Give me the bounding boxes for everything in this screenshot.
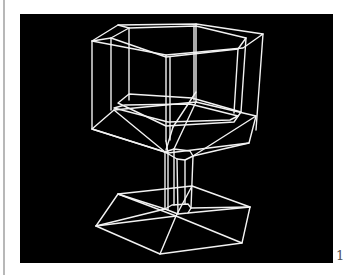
wire-stem-edge-6 — [191, 156, 193, 208]
wire-base-spoke-9 — [191, 207, 250, 208]
goblet-wireframe — [0, 0, 352, 275]
page-number: 1 — [336, 249, 344, 263]
wire-stem-edge-4 — [177, 159, 178, 214]
wire-bowl-bottom-outer — [92, 102, 256, 153]
wire-base-spoke-5 — [176, 216, 242, 243]
wire-wall-right-outer — [256, 34, 263, 130]
wire-cup-floor-inner2 — [114, 104, 238, 122]
wire-bowl-taper-2 — [114, 110, 165, 152]
wire-wall-right-inner2 — [234, 49, 238, 113]
wire-base-spoke-8 — [118, 194, 165, 209]
wire-stem-top — [165, 149, 193, 160]
wire-rim-inner — [111, 26, 246, 57]
wire-base-spoke-6 — [160, 216, 176, 254]
wire-bowl-taper-1 — [92, 129, 165, 152]
wire-wall-right-inner — [241, 38, 246, 112]
wire-base-spoke-7 — [96, 216, 176, 226]
